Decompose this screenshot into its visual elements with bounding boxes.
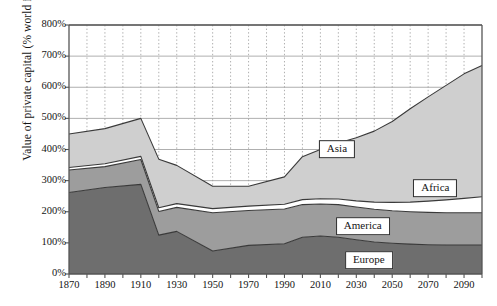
y-tick-label: 100%	[22, 237, 66, 248]
x-axis-tick-labels: 1870189019101930195019701990201020302050…	[0, 280, 497, 302]
y-tick-label: 500%	[22, 112, 66, 123]
y-tick-label: 300%	[22, 175, 66, 186]
x-tick-label: 2090	[441, 280, 487, 291]
y-tick-label: 0%	[22, 268, 66, 279]
y-tick-label: 600%	[22, 81, 66, 92]
y-tick-label: 700%	[22, 50, 66, 61]
y-tick-label: 200%	[22, 206, 66, 217]
series-label-america: America	[336, 218, 390, 236]
y-axis-tick-labels: 800%700%600%500%400%300%200%100%0%	[18, 0, 66, 306]
chart-figure: Value of private capital (% world income…	[0, 0, 497, 306]
series-label-africa: Africa	[413, 179, 457, 197]
series-label-europe: Europe	[345, 251, 393, 269]
area-chart-plot	[0, 0, 497, 306]
series-label-asia: Asia	[319, 140, 355, 158]
y-tick-label: 800%	[22, 19, 66, 30]
y-tick-label: 400%	[22, 144, 66, 155]
